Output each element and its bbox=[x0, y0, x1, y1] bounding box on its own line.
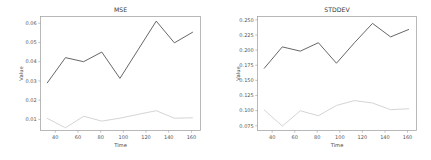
mse-plot-frame bbox=[41, 17, 201, 131]
stddev-series-upper bbox=[264, 23, 408, 68]
stddev-y-tick-label: 0.225 bbox=[239, 32, 253, 38]
mse-title: MSE bbox=[114, 6, 127, 13]
chart-panel-stddev: STDDEV0.0750.1000.1250.1500.1750.2000.22… bbox=[216, 0, 431, 160]
mse-x-tick-label: 80 bbox=[97, 134, 103, 140]
mse-series-upper bbox=[47, 21, 192, 83]
stddev-y-tick-label: 0.125 bbox=[239, 92, 253, 98]
stddev-series-lower bbox=[264, 101, 408, 126]
stddev-x-tick-label: 160 bbox=[403, 134, 413, 140]
mse-plot-group: MSE0.010.020.030.040.050.064060801001201… bbox=[18, 6, 201, 148]
stddev-y-tick-label: 0.200 bbox=[239, 47, 253, 53]
stddev-y-axis-title: Value bbox=[235, 66, 241, 80]
mse-x-tick-label: 120 bbox=[141, 134, 151, 140]
stddev-plot-group: STDDEV0.0750.1000.1250.1500.1750.2000.22… bbox=[235, 6, 417, 148]
stddev-x-tick-label: 120 bbox=[358, 134, 368, 140]
stddev-y-tick-label: 0.150 bbox=[239, 77, 253, 83]
mse-x-tick-label: 140 bbox=[164, 134, 174, 140]
stddev-x-tick-label: 100 bbox=[335, 134, 345, 140]
stddev-x-tick-label: 40 bbox=[269, 134, 275, 140]
mse-y-tick-label: 0.01 bbox=[26, 116, 37, 122]
stddev-y-tick-label: 0.100 bbox=[239, 107, 253, 113]
mse-x-axis-title: Time bbox=[113, 142, 127, 148]
mse-x-tick-label: 60 bbox=[75, 134, 81, 140]
mse-series-lower bbox=[47, 111, 192, 128]
stddev-chart-svg: STDDEV0.0750.1000.1250.1500.1750.2000.22… bbox=[216, 0, 431, 160]
mse-chart-svg: MSE0.010.020.030.040.050.064060801001201… bbox=[0, 0, 215, 160]
mse-y-tick-label: 0.05 bbox=[26, 39, 37, 45]
mse-y-axis-title: Value bbox=[18, 66, 24, 80]
mse-x-tick-label: 100 bbox=[119, 134, 129, 140]
mse-x-tick-label: 40 bbox=[52, 134, 58, 140]
stddev-y-tick-label: 0.250 bbox=[239, 17, 253, 23]
stddev-title: STDDEV bbox=[324, 6, 350, 13]
mse-y-tick-label: 0.06 bbox=[26, 20, 37, 26]
stddev-plot-frame bbox=[258, 17, 417, 131]
chart-panel-mse: MSE0.010.020.030.040.050.064060801001201… bbox=[0, 0, 215, 160]
stddev-x-tick-label: 80 bbox=[314, 134, 320, 140]
mse-y-tick-label: 0.03 bbox=[26, 78, 37, 84]
stddev-x-tick-label: 60 bbox=[292, 134, 298, 140]
mse-y-tick-label: 0.04 bbox=[26, 58, 37, 64]
mse-y-tick-label: 0.02 bbox=[26, 97, 37, 103]
stddev-y-tick-label: 0.175 bbox=[239, 62, 253, 68]
stddev-x-tick-label: 140 bbox=[380, 134, 390, 140]
stddev-y-tick-label: 0.075 bbox=[239, 123, 253, 129]
stddev-x-axis-title: Time bbox=[330, 142, 344, 148]
figure-canvas: MSE0.010.020.030.040.050.064060801001201… bbox=[0, 0, 431, 160]
mse-x-tick-label: 160 bbox=[187, 134, 197, 140]
